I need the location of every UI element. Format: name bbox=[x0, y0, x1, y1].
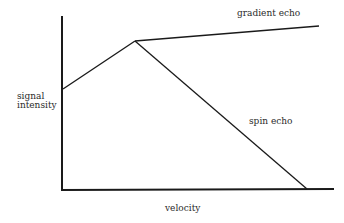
shared-rising-segment bbox=[63, 41, 135, 89]
gradient-echo-label: gradient echo bbox=[237, 8, 300, 18]
gradient-echo-line bbox=[135, 26, 319, 41]
diagram-canvas bbox=[0, 0, 344, 223]
spin-echo-label: spin echo bbox=[249, 116, 293, 126]
x-axis-label: velocity bbox=[165, 203, 200, 213]
x-axis bbox=[61, 189, 334, 190]
y-axis-label-line2: intensity bbox=[17, 100, 57, 110]
spin-echo-line bbox=[135, 41, 307, 189]
